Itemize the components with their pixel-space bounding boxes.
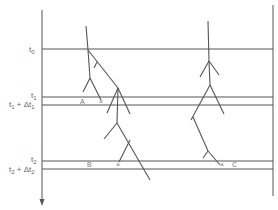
svg-text:t2: t2 — [31, 155, 37, 165]
marker-x2: × — [116, 161, 120, 168]
marker-A: A — [80, 98, 85, 105]
svg-text:t0: t0 — [29, 45, 35, 55]
label-t2-dt2: t2 + Δt2 — [9, 165, 35, 175]
label-t1: t1 — [31, 91, 37, 101]
marker-C: C — [232, 161, 237, 168]
marker-x1: × — [99, 98, 103, 105]
marker-x3: × — [220, 161, 224, 168]
right-branching-tree — [191, 21, 224, 165]
label-t2: t2 — [31, 155, 37, 165]
branching-time-diagram: t0 t1 t1 + Δt1 t2 t2 + Δt2 A — [0, 0, 278, 210]
label-t1-dt1: t1 + Δt1 — [9, 100, 35, 110]
label-t0: t0 — [29, 45, 35, 55]
svg-text:t2 + Δt2: t2 + Δt2 — [9, 165, 35, 175]
marker-B: B — [87, 161, 92, 168]
svg-text:t1 + Δt1: t1 + Δt1 — [9, 100, 35, 110]
svg-text:t1: t1 — [31, 91, 37, 101]
arrow-down-icon — [40, 199, 45, 206]
